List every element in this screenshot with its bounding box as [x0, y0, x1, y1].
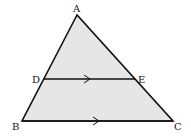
label-e: E [138, 74, 145, 85]
label-c: C [174, 121, 182, 132]
label-d: D [32, 74, 40, 85]
label-a: A [72, 3, 81, 14]
triangle-abc [22, 15, 173, 121]
label-b: B [12, 121, 19, 132]
triangle-diagram: A D E B C [0, 0, 191, 139]
